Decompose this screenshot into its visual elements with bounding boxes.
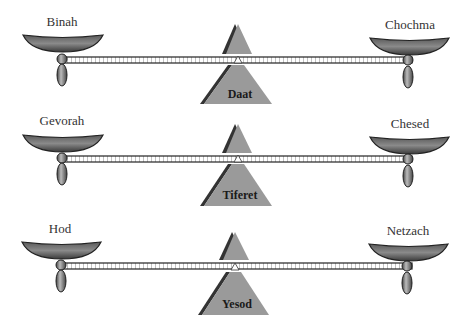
right-label: Chesed bbox=[391, 116, 429, 132]
center-label: Tiferet bbox=[223, 188, 258, 203]
right-label: Netzach bbox=[387, 223, 430, 239]
left-label: Hod bbox=[49, 221, 71, 237]
scale-daat: Binah Chochma Daat bbox=[0, 0, 472, 110]
left-label: Binah bbox=[46, 14, 77, 30]
left-label: Gevorah bbox=[40, 113, 85, 129]
right-label: Chochma bbox=[385, 17, 435, 33]
scale-yesod: Hod Netzach Yesod bbox=[0, 207, 472, 317]
scale-tiferet: Gevorah Chesed Tiferet bbox=[0, 100, 472, 210]
center-label: Yesod bbox=[222, 297, 252, 312]
